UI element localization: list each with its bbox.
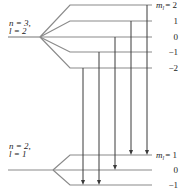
ml-label: ml= 1 (156, 150, 177, 161)
ml-label: ml= 2 (156, 0, 177, 11)
energy-level-diagram: n = 3, l = 2 n = 2, l = 1 ml= 210−1−2ml=… (0, 0, 182, 193)
arrowhead (129, 150, 133, 155)
lower-sublevel-line (53, 155, 152, 170)
arrowhead (81, 180, 85, 185)
upper-sublevel-line (40, 21, 152, 37)
ml-value: = 2 (165, 0, 177, 10)
arrowhead (145, 150, 149, 155)
transition-arrows (81, 5, 149, 185)
lower-sublevel-line (53, 170, 152, 185)
ml-value-label: 1 (174, 16, 179, 26)
ml-labels: ml= 210−1−2ml= 10−1 (156, 0, 179, 190)
arrowhead (113, 165, 117, 170)
ml-value-label: 0 (174, 165, 179, 175)
upper-sublevels (8, 5, 152, 68)
upper-sublevel-line (40, 37, 152, 52)
lower-sublevels (8, 155, 152, 185)
arrowhead (97, 180, 101, 185)
ml-value-label: −1 (168, 180, 178, 190)
ml-value: = 1 (165, 150, 177, 160)
lower-l-label: l = 1 (9, 149, 27, 159)
ml-value-label: −2 (168, 63, 178, 73)
ml-value-label: 0 (174, 32, 179, 42)
upper-l-label: l = 2 (9, 26, 27, 36)
ml-value-label: −1 (168, 47, 178, 57)
